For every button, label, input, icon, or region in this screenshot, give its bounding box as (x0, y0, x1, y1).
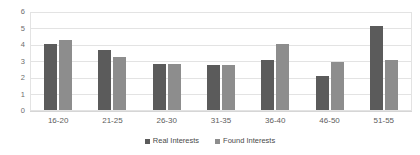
bar[interactable] (331, 62, 344, 111)
y-axis-tick-label: 4 (21, 41, 25, 49)
x-axis-tick-label: 46-50 (302, 113, 356, 129)
chart-legend: Real InterestsFound Interests (0, 134, 420, 148)
bar[interactable] (98, 50, 111, 110)
x-axis-tick-label: 36-40 (248, 113, 302, 129)
plot-area (31, 13, 411, 110)
legend-label: Real Interests (153, 137, 199, 145)
x-axis-tick-label: 21-25 (85, 113, 139, 129)
y-axis-tick-label: 2 (21, 74, 25, 82)
bar[interactable] (113, 57, 126, 110)
gridline (30, 111, 412, 112)
bar[interactable] (153, 64, 166, 110)
bar[interactable] (168, 64, 181, 110)
bar[interactable] (207, 65, 220, 110)
bar-group (31, 13, 85, 110)
bar-group (357, 13, 411, 110)
x-axis-tick-label: 26-30 (140, 113, 194, 129)
bar-group (140, 13, 194, 110)
bar[interactable] (59, 40, 72, 110)
legend-label: Found Interests (223, 137, 275, 145)
bar-group (248, 13, 302, 110)
y-axis-tick-label: 0 (21, 107, 25, 115)
legend-item[interactable]: Real Interests (145, 137, 199, 145)
bar-group (194, 13, 248, 110)
y-axis-tick-label: 1 (21, 91, 25, 99)
y-axis-tick-label: 5 (21, 25, 25, 33)
bar[interactable] (261, 60, 274, 110)
bar[interactable] (276, 44, 289, 110)
legend-item[interactable]: Found Interests (215, 137, 275, 145)
y-axis-tick-label: 3 (21, 58, 25, 66)
bar-group (85, 13, 139, 110)
bar-group (302, 13, 356, 110)
y-axis: 0123456 (0, 12, 30, 111)
x-axis-tick-label: 51-55 (357, 113, 411, 129)
bar[interactable] (44, 44, 57, 110)
bar[interactable] (222, 65, 235, 110)
bar-chart: 0123456 16-2021-2526-3031-3536-4046-5051… (0, 0, 420, 155)
x-axis-tick-label: 31-35 (194, 113, 248, 129)
bar[interactable] (385, 60, 398, 110)
x-axis: 16-2021-2526-3031-3536-4046-5051-55 (31, 113, 411, 129)
x-axis-tick-label: 16-20 (31, 113, 85, 129)
y-axis-tick-label: 6 (21, 8, 25, 16)
bar[interactable] (370, 26, 383, 110)
bar[interactable] (316, 76, 329, 110)
legend-swatch-icon (145, 139, 150, 144)
legend-swatch-icon (215, 139, 220, 144)
